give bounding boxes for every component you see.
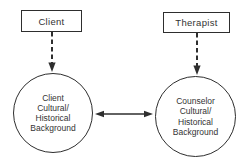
client-background-label: Client Cultural/ Historical Background bbox=[30, 93, 75, 134]
dashed-arrow-client-to-circle bbox=[48, 32, 55, 72]
diagram-canvas: Client Therapist Client Cultural/ Histor… bbox=[0, 0, 249, 165]
double-headed-arrow bbox=[95, 111, 153, 118]
client-background-circle: Client Cultural/ Historical Background bbox=[13, 73, 93, 153]
therapist-box-label: Therapist bbox=[175, 17, 217, 28]
counselor-background-circle: Counselor Cultural/ Historical Backgroun… bbox=[155, 76, 236, 157]
client-box: Client bbox=[21, 10, 82, 32]
counselor-background-label: Counselor Cultural/ Historical Backgroun… bbox=[173, 96, 218, 137]
dashed-arrow-therapist-to-circle bbox=[193, 33, 200, 75]
therapist-box: Therapist bbox=[163, 12, 230, 33]
client-box-label: Client bbox=[38, 16, 64, 27]
